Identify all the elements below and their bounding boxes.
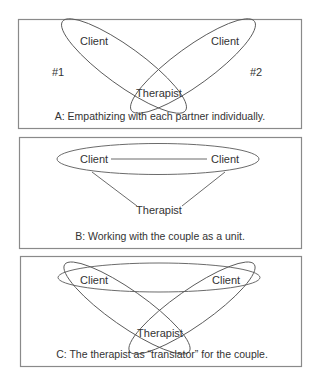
client-right-label: Client: [211, 35, 239, 47]
panel-a-caption: A: Empathizing with each partner individ…: [55, 110, 266, 122]
partner-1-marker: #1: [52, 66, 64, 78]
therapist-label: Therapist: [136, 87, 182, 99]
client-left-label: Client: [80, 35, 108, 47]
client-2-ellipse: [120, 6, 265, 126]
client-right-label: Client: [212, 274, 240, 286]
panel-a: Client Client #1 #2 Therapist A: Empathi…: [19, 6, 302, 129]
therapist-label: Therapist: [136, 204, 182, 216]
client-left-label: Client: [80, 274, 108, 286]
panel-c-caption: C: The therapist as “translator” for the…: [56, 348, 268, 360]
panel-c: Client Client Therapist C: The therapist…: [21, 250, 302, 367]
therapist-label: Therapist: [137, 327, 183, 339]
partner-2-marker: #2: [250, 66, 262, 78]
panel-b-caption: B: Working with the couple as a unit.: [75, 230, 245, 242]
therapist-link-left: [92, 172, 137, 206]
client-left-label: Client: [80, 153, 108, 165]
therapist-link-right: [182, 172, 225, 206]
therapy-diagrams: Client Client #1 #2 Therapist A: Empathi…: [0, 0, 319, 388]
client-1-ellipse: [51, 6, 196, 126]
panel-b: Client Client Therapist B: Working with …: [20, 138, 302, 249]
client-right-label: Client: [211, 153, 239, 165]
